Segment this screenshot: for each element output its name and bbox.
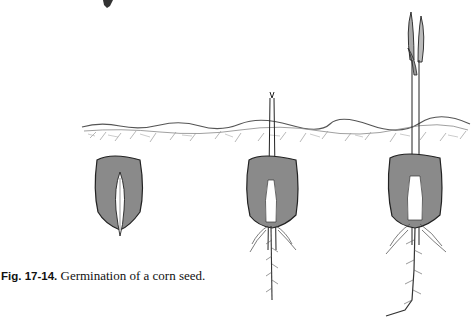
seed-stage-2 [247, 92, 298, 300]
figure-caption-text: Germination of a corn seed. [61, 268, 206, 283]
seed-stage-3 [386, 12, 446, 316]
figure-label: Fig. 17-14. [1, 270, 57, 282]
seed-stage-1 [95, 156, 142, 236]
figure-caption: Fig. 17-14. Germination of a corn seed. [1, 268, 205, 284]
cropped-fragment-icon [103, 0, 113, 8]
